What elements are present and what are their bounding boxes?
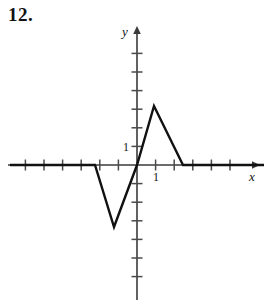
y-axis-label: y — [120, 24, 128, 39]
y-tick-label-1: 1 — [123, 140, 129, 154]
x-axis-label: x — [248, 169, 255, 184]
graph-plot: y x 1 1 — [0, 0, 268, 303]
x-tick-label-1: 1 — [153, 170, 159, 184]
y-axis-arrow-icon — [133, 26, 141, 34]
figure-root: 12. — [0, 0, 268, 303]
